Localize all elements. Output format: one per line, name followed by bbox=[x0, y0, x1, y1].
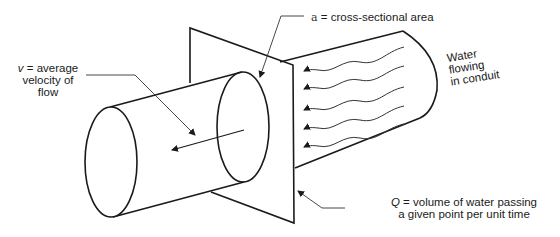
discharge-label: Q = volume of water passing a given poin… bbox=[374, 196, 554, 220]
back-pipe bbox=[280, 31, 437, 168]
area-label: a = cross-sectional area bbox=[311, 11, 434, 24]
front-pipe bbox=[85, 72, 269, 217]
velocity-label: v = average velocity of flow bbox=[10, 62, 86, 98]
discharge-leader bbox=[298, 191, 345, 208]
flow-lines bbox=[304, 47, 404, 147]
area-leader bbox=[260, 16, 304, 77]
discharge-symbol: Q bbox=[391, 196, 400, 208]
water-label: Water flowing in conduit bbox=[446, 44, 500, 87]
